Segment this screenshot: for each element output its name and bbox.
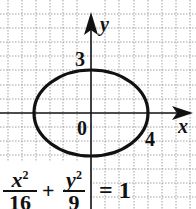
y-axis-label: y (100, 14, 109, 34)
equation-term-x: x2 16 (3, 165, 37, 209)
x-axis-label: x (178, 116, 188, 136)
y-intercept-label: 3 (75, 49, 85, 69)
origin-label: 0 (77, 118, 87, 138)
equation-plus: + (42, 180, 55, 202)
equation-term-y: y2 9 (63, 165, 85, 209)
ellipse-diagram: y x 3 0 4 x2 16 + y2 9 = 1 (0, 0, 196, 209)
x-intercept-label: 4 (145, 129, 155, 149)
equation-rhs: = 1 (99, 178, 131, 202)
